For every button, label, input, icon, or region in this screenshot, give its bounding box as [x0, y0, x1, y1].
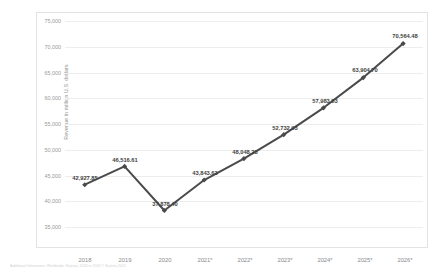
- footer-note: Additional Information: Worldwide; Stati…: [10, 264, 430, 269]
- x-axis-tick-label: 2021*: [197, 257, 212, 263]
- x-axis-tick-label: 2026*: [397, 257, 412, 263]
- x-axis-tick-label: 2024*: [317, 257, 332, 263]
- x-axis-tick-label: 2020: [159, 257, 172, 263]
- x-axis-tick-label: 2025*: [357, 257, 372, 263]
- chart-container: Revenue in million U.S. dollars 35,00040…: [0, 0, 437, 279]
- x-axis-tick-labels: 2018201920202021*2022*2023*2024*2025*202…: [37, 13, 427, 247]
- x-axis-tick-label: 2019: [119, 257, 132, 263]
- x-axis-tick-label: 2018: [79, 257, 92, 263]
- x-axis-tick-label: 2023*: [277, 257, 292, 263]
- plot-area: Revenue in million U.S. dollars 35,00040…: [36, 12, 428, 248]
- x-axis-tick-label: 2022*: [237, 257, 252, 263]
